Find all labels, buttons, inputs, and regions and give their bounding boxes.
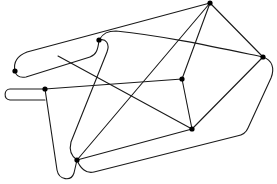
node-G xyxy=(189,126,194,131)
edge-C-B xyxy=(99,31,263,57)
edge-F-E xyxy=(45,79,182,89)
edge-B-H-loop xyxy=(77,57,273,172)
node-C xyxy=(96,37,101,42)
node-H xyxy=(74,157,79,162)
edge-E-loop xyxy=(5,89,45,100)
edge-F-G xyxy=(182,79,192,129)
edge-G-H xyxy=(77,129,192,160)
graph-diagram xyxy=(0,0,277,184)
node-B xyxy=(260,54,265,59)
node-A xyxy=(207,0,212,5)
edge-E-H xyxy=(45,89,77,179)
node-D xyxy=(12,68,17,73)
edge-A-B xyxy=(210,3,263,57)
edge-mid-G xyxy=(58,56,192,129)
node-F xyxy=(179,76,184,81)
node-E xyxy=(42,86,47,91)
